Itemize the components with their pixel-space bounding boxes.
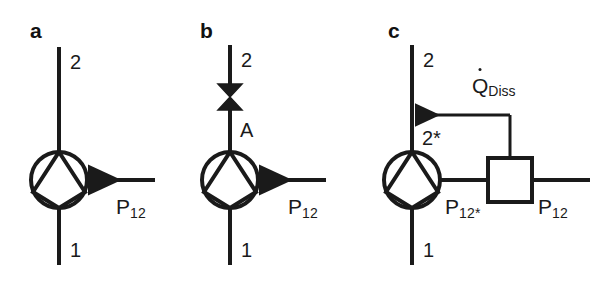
pump-symbol-a <box>31 152 87 208</box>
power-label-internal-c-base: P <box>445 195 459 218</box>
power-label-external-c: P12 <box>538 196 568 220</box>
power-label-a-base: P <box>116 195 130 218</box>
node-label-inlet-c: 1 <box>423 240 434 260</box>
dissipation-box-c <box>488 158 532 202</box>
pump-symbol-c <box>384 152 440 208</box>
node-label-valve-node-b: A <box>240 120 253 140</box>
power-label-a-sub: 12 <box>130 205 146 221</box>
heat-flow-label-c-base: Q <box>472 74 488 97</box>
panel-c-drawing <box>360 0 604 282</box>
power-label-external-c-sub: 12 <box>552 205 568 221</box>
node-label-outlet-c: 2 <box>423 50 434 70</box>
panel-c: c <box>360 0 604 282</box>
panel-b: b 2 <box>178 0 368 282</box>
node-label-outlet-a: 2 <box>70 52 81 72</box>
node-label-inlet-b: 1 <box>241 240 252 260</box>
figure-container: a 2 1 P12 b <box>0 0 604 282</box>
power-label-a: P12 <box>116 196 146 220</box>
power-label-b-sub: 12 <box>302 205 318 221</box>
node-label-outlet-b: 2 <box>241 50 252 70</box>
panel-a-drawing <box>0 0 190 282</box>
heat-flow-label-c: QDiss <box>472 75 516 98</box>
pump-symbol-b <box>202 152 258 208</box>
power-label-b: P12 <box>288 196 318 220</box>
panel-b-drawing <box>178 0 368 282</box>
rate-dot-icon <box>479 68 482 71</box>
panel-a: a 2 1 P12 <box>0 0 190 282</box>
power-label-internal-c-sub: 12* <box>459 205 481 221</box>
power-label-external-c-base: P <box>538 195 552 218</box>
heat-flow-label-c-base-wrap: Q <box>472 75 488 96</box>
power-label-b-base: P <box>288 195 302 218</box>
node-label-inlet-a: 1 <box>70 240 81 260</box>
heat-flow-label-c-sub: Diss <box>488 83 515 99</box>
power-label-internal-c: P12* <box>445 196 481 220</box>
node-label-intermediate-c: 2* <box>422 128 441 148</box>
valve-symbol-b <box>218 84 242 110</box>
